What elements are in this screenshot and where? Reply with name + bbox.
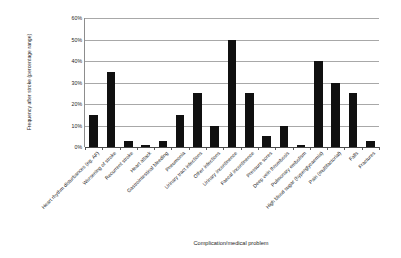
y-tick-label: 30% [62,80,82,86]
x-tick-label: Falls [347,150,359,162]
bar [193,93,202,147]
bar [314,61,323,147]
bar [262,136,271,147]
bar [280,126,289,148]
y-tick-label: 20% [62,101,82,107]
x-tick-label: Fractures [357,150,376,169]
y-tick-label: 60% [62,15,82,21]
plot-area [84,18,379,147]
bar [228,40,237,148]
bar [89,115,98,147]
bar [176,115,185,147]
x-axis-baseline [85,147,379,148]
y-tick-label: 0% [62,144,82,150]
bar [349,93,358,147]
bar-chart-figure: Frequency after stroke (percentage range… [0,0,401,258]
x-axis-title: Complication/medical problem [84,240,378,246]
y-tick-label: 40% [62,58,82,64]
y-tick-label: 50% [62,37,82,43]
bars-group [85,18,379,147]
y-axis-tick-labels: 0%10%20%30%40%50%60% [62,14,82,147]
bar [245,93,254,147]
bar [107,72,116,147]
y-axis-title: Frequency after stroke (percentage range… [26,6,32,158]
bar [210,126,219,148]
y-tick-label: 10% [62,123,82,129]
x-tick-label: Pain (multifactorial) [307,150,342,185]
x-axis-tick-labels: Heart rhythm disturbances (eg. AF)Worsen… [84,150,384,228]
bar [331,83,340,148]
